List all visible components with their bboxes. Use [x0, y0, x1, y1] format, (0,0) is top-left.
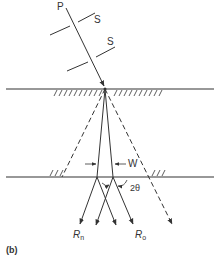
label-w: W: [128, 159, 137, 169]
angle-arc-left: [102, 183, 109, 186]
angle-arc-right: [118, 180, 127, 186]
figure-caption: (b): [6, 246, 18, 255]
ray-cross-2: [96, 177, 113, 225]
label-ro: Ro: [135, 230, 146, 240]
label-p: P: [57, 2, 64, 12]
label-s-upper: S: [94, 15, 101, 25]
label-s-lower: S: [107, 37, 114, 47]
top-surface-hatching: [54, 90, 162, 96]
label-rn: Rn: [73, 230, 84, 240]
dashed-ray-right: [105, 89, 172, 224]
ray-cross-1: [97, 177, 116, 225]
slit-upper: [50, 13, 95, 35]
label-2theta: 2θ: [130, 184, 140, 193]
ray-inner-right: [105, 89, 113, 177]
ray-inner-left: [97, 89, 105, 177]
ray-rn: [80, 177, 97, 224]
